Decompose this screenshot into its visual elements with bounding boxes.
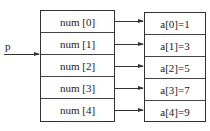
link-arrow-2 — [115, 66, 143, 67]
link-arrow-4 — [115, 110, 143, 111]
right-cell-1: a[1]=3 — [145, 35, 205, 57]
left-cell-1: num [1] — [41, 33, 114, 55]
left-cell-2: num [2] — [41, 55, 114, 77]
pointer-label: p — [5, 40, 11, 52]
left-cell-4: num [4] — [41, 99, 114, 121]
left-array-box: num [0] num [1] num [2] num [3] num [4] — [40, 10, 115, 122]
left-cell-0: num [0] — [41, 11, 114, 33]
right-cell-0: a[0]=1 — [145, 13, 205, 35]
right-cell-2: a[2]=5 — [145, 57, 205, 79]
link-arrow-0 — [115, 21, 143, 22]
right-cell-3: a[3]=7 — [145, 79, 205, 101]
right-cell-4: a[4]=9 — [145, 101, 205, 123]
left-cell-3: num [3] — [41, 77, 114, 99]
link-arrow-1 — [115, 44, 143, 45]
pointer-arrow — [4, 54, 39, 55]
right-array-box: a[0]=1 a[1]=3 a[2]=5 a[3]=7 a[4]=9 — [144, 12, 206, 122]
link-arrow-3 — [115, 88, 143, 89]
